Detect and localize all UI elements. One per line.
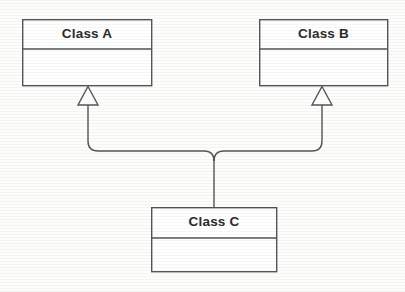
class-b-outline[interactable] — [260, 20, 388, 86]
gen-c-to-b-hollow-triangle-arrowhead — [312, 87, 332, 106]
class-box-class-c[interactable] — [152, 208, 277, 272]
class-box-class-a[interactable] — [23, 20, 152, 86]
class-c-outline[interactable] — [152, 208, 277, 272]
class-box-class-b[interactable] — [260, 20, 388, 86]
gen-c-to-a-hollow-triangle-arrowhead — [78, 87, 98, 106]
uml-diagram-canvas: Class A Class B Class C — [0, 0, 405, 292]
generalization-class-c-to-class-a[interactable] — [78, 87, 214, 162]
class-a-outline[interactable] — [23, 20, 152, 86]
gen-c-to-a-connector-line[interactable] — [88, 105, 214, 161]
generalization-class-c-to-class-b[interactable] — [214, 87, 332, 162]
gen-c-to-b-connector-line[interactable] — [214, 105, 322, 161]
uml-diagram-vector-layer — [0, 0, 405, 292]
